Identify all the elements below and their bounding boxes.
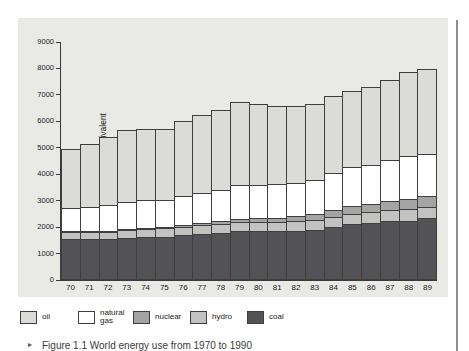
bar-73 <box>117 42 137 280</box>
bar-segment-oil <box>286 106 306 184</box>
bar-segment-coal <box>305 230 325 280</box>
y-axis-tick-label: 0 <box>50 276 54 284</box>
y-axis-tick-label: 9000 <box>37 38 54 46</box>
bar-segment-natural-gas <box>99 205 119 231</box>
legend-swatch <box>78 311 95 324</box>
x-axis-label: 83 <box>305 283 324 292</box>
bar-segment-oil <box>399 72 419 157</box>
bar-84 <box>324 42 344 280</box>
bar-segment-natural-gas <box>155 200 175 228</box>
bar-segment-coal <box>324 227 344 280</box>
bar-segment-natural-gas <box>342 167 362 206</box>
x-axis-label: 74 <box>136 283 155 292</box>
bar-segment-coal <box>267 231 287 280</box>
bar-segment-coal <box>155 237 175 280</box>
bar-segment-coal <box>99 239 119 280</box>
bar-77 <box>192 42 212 280</box>
x-axis-label: 82 <box>287 283 306 292</box>
bar-segment-coal <box>249 231 269 280</box>
legend-item-hydro: hydro <box>190 308 232 326</box>
bar-segment-coal <box>192 234 212 280</box>
legend: oilnatural gasnuclearhydrocoal <box>18 308 438 328</box>
bar-segment-natural-gas <box>305 180 325 215</box>
bar-segment-coal <box>174 235 194 280</box>
bar-87 <box>380 42 400 280</box>
bar-segment-natural-gas <box>324 173 344 211</box>
bar-segment-oil <box>305 104 325 181</box>
bar-segment-natural-gas <box>61 208 81 232</box>
y-axis-tick-label: 7000 <box>37 91 54 99</box>
bar-segment-coal <box>211 233 231 280</box>
bar-segment-oil <box>267 106 287 185</box>
bar-segment-natural-gas <box>286 183 306 218</box>
bar-segment-oil <box>380 80 400 161</box>
x-axis-label: 79 <box>230 283 249 292</box>
bar-segment-natural-gas <box>192 193 212 224</box>
bar-79 <box>230 42 250 280</box>
bar-segment-coal <box>399 221 419 281</box>
bar-80 <box>249 42 269 280</box>
bar-segment-natural-gas <box>136 200 156 229</box>
x-axis: 7071727374757677787980818283848586878889 <box>61 283 437 292</box>
legend-swatch <box>133 311 150 324</box>
caption-marker-icon: ▸ <box>28 340 32 349</box>
bar-segment-oil <box>99 137 119 206</box>
bar-75 <box>155 42 175 280</box>
y-axis-tick <box>56 174 60 175</box>
figure-page: million tonnes oil equivalent 0100020003… <box>0 0 469 351</box>
figure-caption: ▸ Figure 1.1 World energy use from 1970 … <box>28 340 252 351</box>
x-axis-label: 89 <box>418 283 437 292</box>
bar-segment-coal <box>136 237 156 280</box>
x-axis-label: 78 <box>211 283 230 292</box>
bar-71 <box>80 42 100 280</box>
bar-83 <box>305 42 325 280</box>
bar-segment-coal <box>80 239 100 280</box>
bar-segment-natural-gas <box>417 154 437 197</box>
bar-segment-coal <box>417 218 437 280</box>
y-axis-tick <box>56 253 60 254</box>
y-axis-tick-label: 3000 <box>37 197 54 205</box>
x-axis-label: 75 <box>155 283 174 292</box>
bar-segment-natural-gas <box>380 160 400 202</box>
y-axis-tick-label: 5000 <box>37 144 54 152</box>
y-axis-tick-label: 1000 <box>37 250 54 258</box>
bar-segment-natural-gas <box>249 185 269 219</box>
bar-81 <box>267 42 287 280</box>
legend-swatch <box>190 311 207 324</box>
bar-segment-natural-gas <box>230 185 250 219</box>
bar-segment-oil <box>230 102 250 186</box>
legend-swatch <box>247 311 264 324</box>
bar-segment-oil <box>136 129 156 201</box>
y-axis-tick <box>56 227 60 228</box>
bar-89 <box>417 42 437 280</box>
x-axis-label: 72 <box>99 283 118 292</box>
legend-label: oil <box>42 313 50 321</box>
bar-segment-coal <box>61 239 81 280</box>
figure-panel: million tonnes oil equivalent 0100020003… <box>18 18 448 297</box>
bar-segment-coal <box>380 221 400 280</box>
bar-segment-natural-gas <box>267 184 287 219</box>
x-axis-label: 84 <box>324 283 343 292</box>
y-axis-tick <box>56 121 60 122</box>
x-axis-label: 86 <box>362 283 381 292</box>
x-axis-label: 71 <box>80 283 99 292</box>
bar-segment-oil <box>80 144 100 207</box>
y-axis-tick <box>56 200 60 201</box>
legend-item-coal: coal <box>247 308 284 326</box>
x-axis-label: 77 <box>193 283 212 292</box>
legend-item-natural-gas: natural gas <box>78 308 124 326</box>
legend-label: hydro <box>212 313 232 321</box>
bar-segment-oil <box>361 87 381 166</box>
bar-segment-oil <box>61 149 81 209</box>
x-axis-label: 85 <box>343 283 362 292</box>
legend-label: nuclear <box>155 313 181 321</box>
legend-label: coal <box>269 313 284 321</box>
bar-segment-natural-gas <box>117 202 137 230</box>
x-axis-label: 76 <box>174 283 193 292</box>
y-axis-tick-label: 6000 <box>37 117 54 125</box>
y-axis-tick <box>56 42 60 43</box>
bar-86 <box>361 42 381 280</box>
y-axis-tick-label: 2000 <box>37 223 54 231</box>
bar-88 <box>399 42 419 280</box>
x-axis-label: 81 <box>268 283 287 292</box>
